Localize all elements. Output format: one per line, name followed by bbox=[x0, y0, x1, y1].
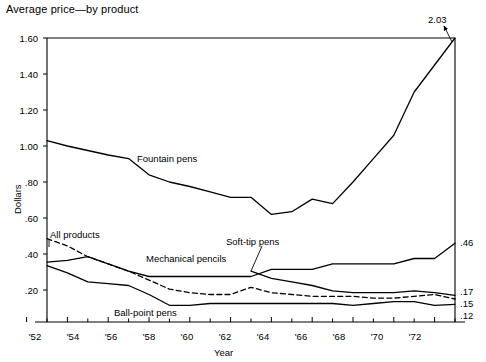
annotation-arrow-peak bbox=[444, 26, 452, 42]
x-axis-ticks bbox=[27, 317, 455, 322]
chart-container: Average price—by product 1.60 1.40 1.20 … bbox=[0, 0, 486, 362]
series-group bbox=[47, 38, 455, 305]
series-line-soft-tip-pens bbox=[251, 271, 455, 295]
series-line-fountain-pens bbox=[47, 38, 455, 214]
y-axis-ticks bbox=[43, 38, 47, 290]
series-line-all-products bbox=[47, 239, 455, 299]
leader-line-soft-tip-pens bbox=[251, 246, 262, 271]
axis-frame bbox=[35, 38, 465, 322]
chart-plot-area bbox=[0, 0, 486, 362]
leader-lines bbox=[49, 26, 452, 271]
axes-group bbox=[27, 38, 465, 322]
